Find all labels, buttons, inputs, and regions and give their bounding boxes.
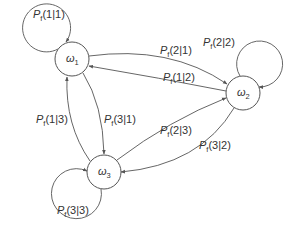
node-omega-3: ω3 (87, 155, 121, 189)
edge-1-to-3: Pf(3|1) (83, 73, 136, 154)
transition-diagram: Pf(1|1) Pf(2|2) Pf(3|3) Pf(2|1) (0, 0, 299, 233)
svg-text:Pf(3|2): Pf(3|2) (199, 139, 231, 154)
node-omega-2: ω2 (226, 76, 260, 110)
edge-2-to-3: Pf(3|2) (121, 108, 234, 172)
svg-text:Pf(1|3): Pf(1|3) (36, 113, 68, 128)
svg-text:Pf(3|1): Pf(3|1) (104, 113, 136, 128)
edge-2-to-1: Pf(1|2) (89, 66, 226, 91)
svg-text:Pf(3|3): Pf(3|3) (57, 204, 89, 219)
svg-text:Pf(1|1): Pf(1|1) (33, 8, 65, 23)
svg-text:Pf(2|3): Pf(2|3) (160, 124, 192, 139)
svg-text:Pf(2|2): Pf(2|2) (203, 36, 235, 51)
edge-3-to-1: Pf(1|3) (36, 77, 90, 161)
node-omega-1: ω1 (55, 42, 89, 76)
svg-text:Pf(2|1): Pf(2|1) (160, 44, 192, 59)
